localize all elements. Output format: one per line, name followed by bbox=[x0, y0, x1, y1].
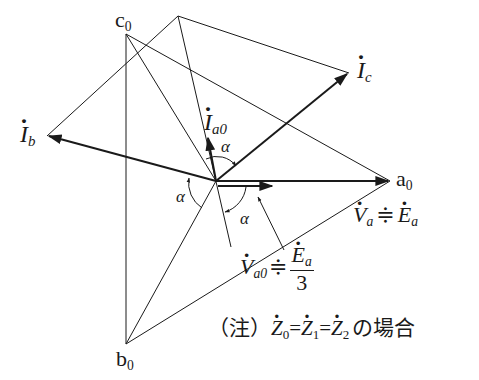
angle-label-left: α bbox=[176, 188, 185, 205]
ib-arrow bbox=[49, 136, 216, 181]
label-va0-approx-ea-over-3: Va0≑Ea3 bbox=[240, 244, 314, 294]
line-c0-origin bbox=[126, 34, 216, 181]
angle-label-top: α bbox=[221, 138, 230, 155]
angle-label-bottom: α bbox=[240, 210, 249, 227]
fraction-ea-over-3: Ea3 bbox=[290, 244, 314, 294]
line-apex-ib bbox=[47, 16, 178, 136]
label-b0: b0 bbox=[116, 348, 134, 373]
note-z-equal: （注）Z0=Z1=Z2の場合 bbox=[208, 318, 415, 341]
label-ib: Ib bbox=[20, 122, 35, 149]
label-ia0: Ia0 bbox=[204, 110, 227, 137]
line-apex-ic bbox=[178, 16, 349, 73]
ic-arrow bbox=[216, 74, 347, 181]
label-c0: c0 bbox=[115, 9, 132, 34]
angle-arc-left bbox=[189, 178, 202, 208]
line-b0-origin bbox=[126, 181, 216, 344]
line-c0-a0 bbox=[126, 34, 390, 181]
label-va-approx-ea: Va≑Ea bbox=[353, 204, 418, 229]
va0-leader-arrow bbox=[258, 197, 284, 250]
label-ic: Ic bbox=[357, 58, 372, 85]
